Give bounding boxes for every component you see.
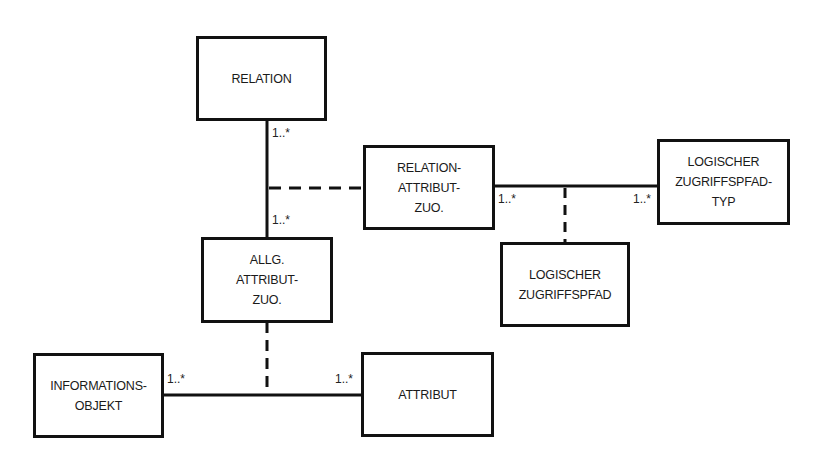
entity-label: LOGISCHER ZUGRIFFSPFAD: [519, 265, 612, 305]
multiplicity-attribut-left: 1..*: [335, 372, 353, 386]
entity-label: INFORMATIONS- OBJEKT: [50, 376, 146, 416]
multiplicity-allg-top: 1..*: [272, 213, 290, 227]
multiplicity-relation-bottom: 1..*: [272, 126, 290, 140]
entity-label: RELATION- ATTRIBUT- ZUO.: [397, 158, 461, 218]
entity-relation-attribut-zuo: RELATION- ATTRIBUT- ZUO.: [363, 145, 495, 230]
entity-attribut: ATTRIBUT: [361, 352, 494, 437]
multiplicity-infoobj-right: 1..*: [167, 372, 185, 386]
multiplicity-rel-attr-right: 1..*: [498, 192, 516, 206]
entity-relation: RELATION: [196, 36, 327, 121]
entity-label: RELATION: [232, 69, 292, 89]
multiplicity-logtyp-left: 1..*: [633, 192, 651, 206]
entity-informationsobjekt: INFORMATIONS- OBJEKT: [33, 353, 164, 438]
entity-logischer-zugriffspfad-typ: LOGISCHER ZUGRIFFSPFAD- TYP: [657, 139, 790, 225]
entity-allg-attribut-zuo: ALLG. ATTRIBUT- ZUO.: [201, 237, 333, 323]
entity-label: ALLG. ATTRIBUT- ZUO.: [236, 250, 298, 310]
entity-label: ATTRIBUT: [398, 385, 457, 405]
entity-logischer-zugriffspfad: LOGISCHER ZUGRIFFSPFAD: [500, 242, 630, 327]
entity-label: LOGISCHER ZUGRIFFSPFAD- TYP: [675, 152, 772, 212]
